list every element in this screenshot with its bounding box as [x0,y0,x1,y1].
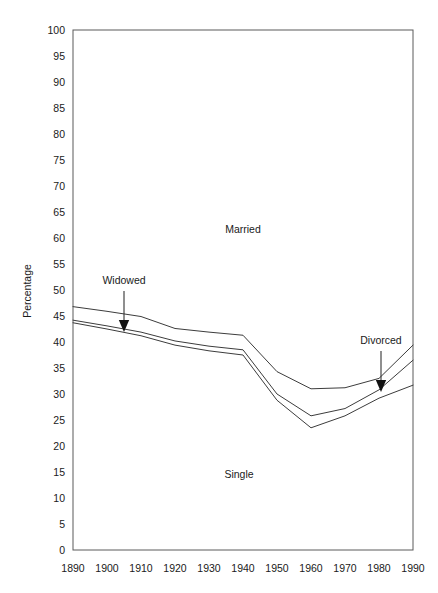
annotation-single: Single [224,468,253,480]
annotation-label-divorced: Divorced [360,334,402,346]
y-axis-tick-label: 80 [53,128,65,140]
x-axis-tick-label: 1980 [367,562,391,574]
x-axis-tick-labels: 1890190019101920193019401950196019701980… [61,562,425,574]
y-axis-tick-label: 60 [53,232,65,244]
y-axis-tick-label: 70 [53,180,65,192]
y-axis-title: Percentage [21,264,33,318]
x-axis-tick-label: 1940 [231,562,255,574]
x-axis-tick-label: 1910 [129,562,153,574]
y-axis-tick-label: 35 [53,362,65,374]
y-axis-tick-label: 15 [53,466,65,478]
x-axis-tick-label: 1950 [265,562,289,574]
annotation-label-widowed: Widowed [102,274,145,286]
y-axis-tick-label: 5 [59,518,65,530]
x-axis-tick-label: 1970 [333,562,357,574]
y-axis-tick-label: 90 [53,76,65,88]
y-axis-tick-label: 95 [53,50,65,62]
y-axis-tick-label: 50 [53,284,65,296]
y-axis-tick-label: 40 [53,336,65,348]
annotation-married: Married [225,223,261,235]
annotation-label-single: Single [224,468,253,480]
y-axis-tick-label: 100 [47,24,65,36]
y-axis-tick-label: 0 [59,544,65,556]
x-axis-tick-label: 1920 [163,562,187,574]
chart-background [0,0,438,593]
x-axis-tick-label: 1900 [95,562,119,574]
x-axis-tick-label: 1990 [401,562,425,574]
y-axis-tick-label: 10 [53,492,65,504]
y-axis-tick-label: 75 [53,154,65,166]
x-axis-tick-label: 1960 [299,562,323,574]
y-axis-tick-label: 55 [53,258,65,270]
y-axis-tick-label: 25 [53,414,65,426]
y-axis-tick-label: 20 [53,440,65,452]
y-axis-tick-label: 45 [53,310,65,322]
chart-container: 0510152025303540455055606570758085909510… [0,0,438,593]
annotation-label-married: Married [225,223,261,235]
line-chart: 0510152025303540455055606570758085909510… [0,0,438,593]
y-axis-tick-label: 30 [53,388,65,400]
y-axis-tick-label: 85 [53,102,65,114]
x-axis-tick-label: 1930 [197,562,221,574]
y-axis-tick-label: 65 [53,206,65,218]
x-axis-tick-label: 1890 [61,562,85,574]
